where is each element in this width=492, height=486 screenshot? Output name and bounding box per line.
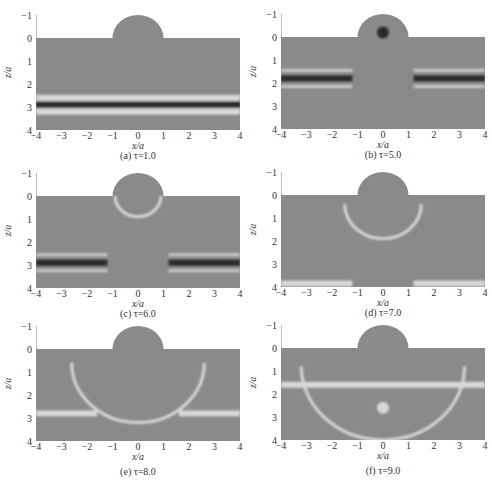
y-tick-label: 1 — [272, 366, 277, 377]
y-tick-label: −1 — [266, 320, 277, 331]
panel-caption: (f) τ=9.0 — [366, 465, 401, 477]
x-tick-label: 4 — [483, 440, 488, 451]
y-tick-label: 3 — [272, 412, 277, 423]
x-tick-label: −1 — [352, 440, 363, 451]
wave-spot — [377, 402, 389, 414]
y-tick-label: 2 — [272, 389, 277, 400]
wave-band — [281, 382, 485, 388]
x-tick-label: −2 — [327, 440, 338, 451]
x-axis-label: x/a — [376, 450, 389, 461]
y-axis-label: z/a — [247, 377, 258, 390]
x-tick-label: 1 — [406, 440, 411, 451]
x-tick-label: 3 — [457, 440, 462, 451]
y-tick-label: 0 — [272, 343, 277, 354]
wavefield — [281, 325, 485, 440]
x-tick-label: 2 — [432, 440, 437, 451]
x-tick-label: −4 — [276, 440, 287, 451]
chart-panel-f: −101234−4−3−2−101234z/ax/a(f) τ=9.0 — [0, 0, 492, 486]
x-tick-label: −3 — [301, 440, 312, 451]
